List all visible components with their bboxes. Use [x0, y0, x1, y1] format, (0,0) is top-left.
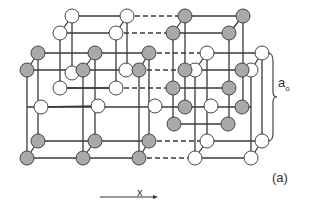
gray-atom — [142, 46, 156, 60]
gray-atom — [222, 81, 236, 95]
white-atom — [109, 81, 123, 95]
white-atom — [244, 151, 258, 165]
gray-atom — [76, 151, 90, 165]
white-atom — [53, 81, 67, 95]
gray-atom — [31, 46, 45, 60]
gray-atom — [88, 46, 102, 60]
white-atom — [148, 99, 162, 113]
gray-atom — [76, 63, 90, 77]
white-atom — [200, 46, 214, 60]
white-atom — [65, 9, 79, 23]
gray-atom — [88, 134, 102, 148]
gray-atom — [221, 117, 235, 131]
figure-label: (a) — [272, 170, 288, 185]
x-axis-arrowhead-icon — [153, 195, 158, 199]
gray-atom — [178, 9, 192, 23]
white-atom — [204, 99, 218, 113]
white-atom — [53, 26, 67, 40]
gray-atom — [166, 26, 180, 40]
gray-atom — [142, 134, 156, 148]
gray-atom — [132, 151, 146, 165]
lattice-bonds-dashed — [116, 16, 207, 158]
crystal-lattice-diagram — [0, 0, 309, 211]
gray-atom — [20, 63, 34, 77]
gray-atom — [178, 63, 192, 77]
gray-atom — [235, 100, 249, 114]
white-atom — [188, 151, 202, 165]
white-atom — [34, 100, 48, 114]
gray-atom — [166, 81, 180, 95]
white-atom — [91, 99, 105, 113]
x-axis-label: x — [137, 186, 143, 198]
lattice-constant-label: ao — [278, 75, 290, 93]
white-atom — [200, 134, 214, 148]
lattice-constant-brace — [268, 53, 277, 141]
gray-atom — [236, 9, 250, 23]
gray-atom — [132, 63, 146, 77]
gray-atom — [235, 63, 249, 77]
white-atom — [119, 63, 133, 77]
gray-atom — [222, 26, 236, 40]
white-atom — [109, 26, 123, 40]
gray-atom — [31, 134, 45, 148]
gray-atom — [178, 100, 192, 114]
white-atom — [255, 134, 269, 148]
gray-atom — [167, 117, 181, 131]
gray-atom — [20, 151, 34, 165]
white-atom — [120, 9, 134, 23]
white-atom — [255, 46, 269, 60]
